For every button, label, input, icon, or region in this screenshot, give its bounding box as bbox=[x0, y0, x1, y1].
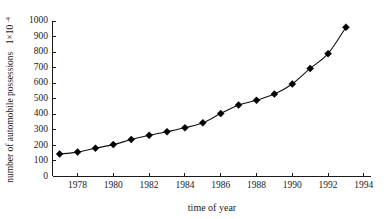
series-markers bbox=[56, 24, 349, 158]
x-tick-label: 1988 bbox=[247, 180, 266, 190]
y-tick-label: 1000 bbox=[29, 15, 48, 25]
y-axis-label: number of automobile possessions 1×10 -4 bbox=[4, 17, 15, 183]
data-point-marker bbox=[74, 149, 81, 156]
data-point-marker bbox=[235, 101, 242, 108]
data-point-marker bbox=[92, 145, 99, 152]
data-point-marker bbox=[164, 128, 171, 135]
y-tick-label: 500 bbox=[34, 93, 49, 103]
x-tick-label: 1986 bbox=[211, 180, 230, 190]
y-axis-unit-text: 1×10 bbox=[5, 24, 15, 44]
y-tick-label: 400 bbox=[34, 108, 49, 118]
data-point-marker bbox=[56, 150, 63, 157]
x-tick-label: 1982 bbox=[140, 180, 159, 190]
svg-text:number of automobile possessio: number of automobile possessions 1×10 -4 bbox=[4, 17, 15, 183]
x-tick-label: 1978 bbox=[68, 180, 87, 190]
y-tick-label: 600 bbox=[34, 77, 49, 87]
y-axis-exponent-text: -4 bbox=[4, 17, 11, 22]
series-line-automobile-possessions bbox=[60, 27, 346, 154]
data-point-marker bbox=[110, 141, 117, 148]
axis-frame bbox=[53, 21, 372, 177]
y-axis-label-text: number of automobile possessions bbox=[5, 51, 15, 182]
x-tick-label: 1990 bbox=[283, 180, 302, 190]
x-tick-label: 1994 bbox=[354, 180, 373, 190]
chart-figure: number of automobile possessions 1×10 -4… bbox=[0, 0, 384, 219]
y-tick-label: 300 bbox=[34, 124, 49, 134]
y-axis: 01002003004005006007008009001000 bbox=[29, 15, 56, 181]
y-tick-label: 0 bbox=[43, 171, 48, 181]
data-point-marker bbox=[128, 136, 135, 143]
y-tick-label: 800 bbox=[34, 46, 49, 56]
data-point-marker bbox=[271, 91, 278, 98]
x-axis-title: time of year bbox=[188, 202, 237, 213]
data-point-marker bbox=[253, 97, 260, 104]
data-point-marker bbox=[199, 119, 206, 126]
data-point-marker bbox=[146, 132, 153, 139]
y-tick-label: 200 bbox=[34, 140, 49, 150]
data-point-marker bbox=[217, 110, 224, 117]
x-tick-label: 1992 bbox=[319, 180, 338, 190]
y-tick-label: 900 bbox=[34, 31, 49, 41]
data-point-marker bbox=[342, 24, 349, 31]
x-tick-label: 1984 bbox=[175, 180, 194, 190]
y-tick-label: 100 bbox=[34, 155, 49, 165]
x-tick-label: 1980 bbox=[104, 180, 123, 190]
y-tick-label: 700 bbox=[34, 62, 49, 72]
data-point-marker bbox=[181, 124, 188, 131]
x-axis: 197819801982198419861988199019921994 bbox=[68, 173, 374, 190]
chart-canvas: number of automobile possessions 1×10 -4… bbox=[0, 0, 384, 219]
